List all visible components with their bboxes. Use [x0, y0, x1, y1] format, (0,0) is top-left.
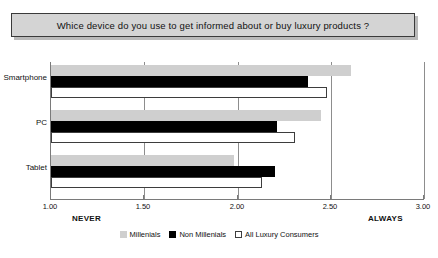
bar-smartphone-all-luxury-consumers — [51, 87, 327, 98]
legend-swatch-all-luxury-consumers — [235, 231, 242, 238]
x-tick-2 — [237, 195, 238, 200]
x-tick-label-2: 2.00 — [230, 202, 245, 211]
category-label-tablet: Tablet — [26, 163, 47, 172]
bar-group-tablet: Tablet — [51, 155, 424, 193]
legend-item-all-luxury-consumers: All Luxury Consumers — [235, 230, 318, 239]
bar-pc-non-millenials — [51, 121, 277, 132]
x-tick-label-4: 3.00 — [416, 202, 431, 211]
chart-legend: Millenials Non Millenials All Luxury Con… — [0, 230, 438, 239]
plot-area: Smartphone PC Tablet — [50, 62, 424, 199]
x-tick-3 — [330, 195, 331, 200]
x-axis: 1.00 1.50 2.00 2.50 3.00 — [50, 199, 424, 200]
bar-tablet-all-luxury-consumers — [51, 177, 262, 188]
legend-label-millenials: Millenials — [130, 230, 161, 239]
legend-label-non-millenials: Non Millenials — [179, 230, 226, 239]
legend-item-non-millenials: Non Millenials — [169, 230, 226, 239]
bar-smartphone-non-millenials — [51, 76, 308, 87]
axis-anchor-always: ALWAYS — [368, 214, 403, 223]
x-tick-1 — [143, 195, 144, 200]
chart-title-box: Whice device do you use to get informed … — [11, 13, 415, 37]
x-tick-0 — [50, 195, 51, 200]
bar-tablet-millenials — [51, 155, 234, 166]
gridline-3-00 — [424, 62, 425, 199]
x-tick-label-1: 1.50 — [136, 202, 151, 211]
bar-pc-millenials — [51, 110, 321, 121]
x-tick-4 — [423, 195, 424, 200]
legend-swatch-non-millenials — [169, 231, 176, 238]
chart-figure: Whice device do you use to get informed … — [0, 0, 438, 258]
bar-group-pc: PC — [51, 110, 424, 148]
bar-tablet-non-millenials — [51, 166, 275, 177]
legend-item-millenials: Millenials — [120, 230, 161, 239]
bar-pc-all-luxury-consumers — [51, 132, 295, 143]
x-tick-label-3: 2.50 — [323, 202, 338, 211]
x-tick-label-0: 1.00 — [43, 202, 58, 211]
bar-group-smartphone: Smartphone — [51, 65, 424, 103]
chart-title: Whice device do you use to get informed … — [57, 20, 370, 31]
axis-anchor-never: NEVER — [72, 214, 101, 223]
category-label-pc: PC — [36, 118, 47, 127]
legend-swatch-millenials — [120, 231, 127, 238]
category-label-smartphone: Smartphone — [3, 73, 47, 82]
legend-label-all-luxury-consumers: All Luxury Consumers — [245, 230, 318, 239]
bar-smartphone-millenials — [51, 65, 351, 76]
